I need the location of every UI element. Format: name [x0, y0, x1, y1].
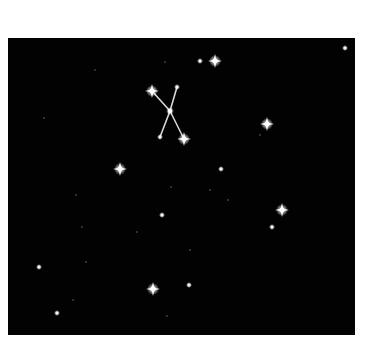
star-icon	[218, 166, 224, 172]
star-icon	[342, 45, 348, 51]
star-icon	[209, 189, 211, 191]
star-icon	[208, 54, 222, 68]
star-icon	[166, 315, 168, 317]
star-icon	[72, 299, 74, 301]
star-icon	[157, 134, 163, 140]
star-icon	[166, 107, 174, 115]
star-icon	[81, 226, 83, 228]
star-icon	[186, 282, 192, 288]
constellation-line	[160, 111, 170, 137]
star-icon	[269, 224, 275, 230]
star-icon	[136, 231, 138, 233]
star-icon	[36, 264, 42, 270]
stars	[36, 45, 348, 317]
star-icon	[54, 310, 60, 316]
star-icon	[260, 117, 274, 131]
star-icon	[259, 134, 261, 136]
star-icon	[170, 186, 172, 188]
star-icon	[227, 199, 229, 201]
star-icon	[177, 132, 191, 146]
star-icon	[94, 69, 96, 71]
star-icon	[85, 261, 87, 263]
star-icon	[275, 203, 289, 217]
star-chart	[8, 38, 355, 335]
star-icon	[146, 282, 160, 296]
star-icon	[174, 84, 180, 90]
star-icon	[189, 249, 191, 251]
star-icon	[113, 162, 127, 176]
star-icon	[75, 194, 77, 196]
star-icon	[164, 61, 166, 63]
star-field	[8, 38, 355, 335]
star-icon	[159, 212, 165, 218]
star-icon	[43, 117, 45, 119]
star-icon	[197, 58, 203, 64]
